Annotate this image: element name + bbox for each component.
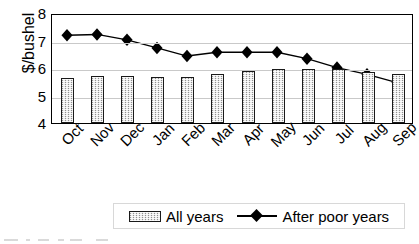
marker-oct xyxy=(61,29,72,42)
legend-item-after-poor-years: After poor years xyxy=(237,208,389,225)
marker-feb xyxy=(181,50,192,63)
x-axis-tick-labels: OctNovDecJanFebMarAprMayJunJulAugSep xyxy=(51,124,413,184)
bar-feb xyxy=(181,77,194,123)
marker-may xyxy=(271,46,282,59)
bar-dec xyxy=(121,76,134,123)
caption-fragment xyxy=(4,233,134,242)
legend-item-all-years: All years xyxy=(129,208,224,225)
y-tick-4: 4 xyxy=(24,117,46,131)
marker-jun xyxy=(301,52,312,65)
marker-apr xyxy=(241,46,252,59)
bar-may xyxy=(272,69,285,123)
bar-swatch-icon xyxy=(129,211,161,222)
plot-area xyxy=(51,14,413,124)
y-axis-tick-labels: 87654 xyxy=(22,0,46,244)
chart-legend: All years After poor years xyxy=(113,203,405,229)
gridline xyxy=(52,70,412,71)
bar-mar xyxy=(211,74,224,123)
bar-oct xyxy=(61,78,74,123)
bar-jul xyxy=(332,69,345,123)
marker-jan xyxy=(151,42,162,55)
y-tick-6: 6 xyxy=(24,62,46,76)
marker-nov xyxy=(91,28,102,41)
marker-dec xyxy=(121,34,132,47)
bar-aug xyxy=(362,72,375,123)
bar-apr xyxy=(242,71,255,123)
bar-jan xyxy=(151,77,164,123)
marker-mar xyxy=(211,46,222,59)
gridline xyxy=(52,98,412,99)
y-tick-5: 5 xyxy=(24,90,46,104)
line-marker-swatch-icon xyxy=(237,210,277,222)
y-tick-8: 8 xyxy=(24,7,46,21)
chart-figure: $/bushel 87654 OctNovDecJanFebMarAprMayJ… xyxy=(0,0,419,244)
legend-label-after-poor-years: After poor years xyxy=(282,208,389,225)
legend-label-all-years: All years xyxy=(166,208,224,225)
bar-nov xyxy=(91,76,104,123)
y-tick-7: 7 xyxy=(24,35,46,49)
bar-jun xyxy=(302,69,315,123)
line-series-after-poor-years xyxy=(52,15,412,123)
gridline xyxy=(52,43,412,44)
bar-sep xyxy=(392,74,405,124)
